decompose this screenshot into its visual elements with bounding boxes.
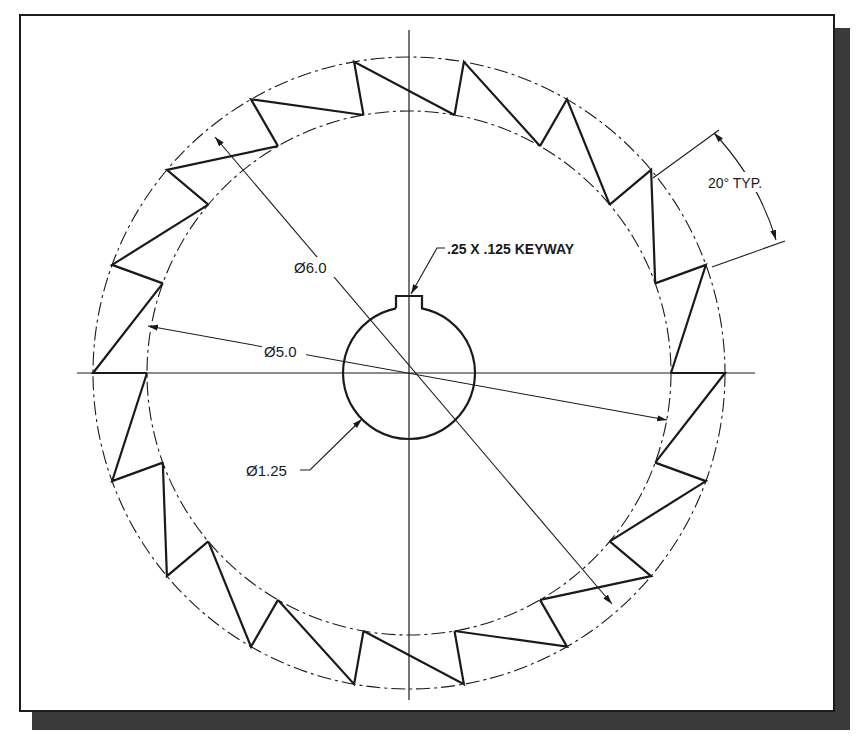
root-diameter-label: Ø5.0: [264, 343, 297, 360]
outer-diameter-label: Ø6.0: [294, 259, 327, 276]
angle-extension-2: [712, 241, 785, 267]
bore-diameter-label: Ø1.25: [246, 462, 287, 479]
angle-extension-1: [653, 130, 719, 178]
keyway-leader: [411, 248, 445, 294]
bore-leader: [300, 419, 362, 470]
drawing-sheet: Ø6.0 Ø5.0 Ø1.25 .25 X .125 KEYWAY 20° TY…: [0, 0, 856, 747]
tooth-angle-label: 20° TYP.: [708, 175, 762, 191]
outer-diameter-dim-line: [215, 137, 612, 604]
ratchet-drawing: Ø6.0 Ø5.0 Ø1.25 .25 X .125 KEYWAY 20° TY…: [0, 0, 856, 747]
keyway-label: .25 X .125 KEYWAY: [447, 241, 575, 257]
